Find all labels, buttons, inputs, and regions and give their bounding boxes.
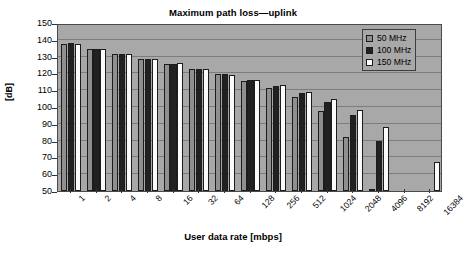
bar [215,74,221,191]
bar-group [186,25,212,191]
x-tick-label: 64 [232,193,246,207]
bar [222,74,228,191]
y-tick-label: 60 [42,169,57,179]
bar [87,49,93,191]
bar-group [135,25,161,191]
bar [170,64,176,191]
x-tick-mark [301,189,302,193]
bar [164,64,170,191]
chart-title: Maximum path loss—uplink [0,7,466,18]
black-swatch [366,47,373,54]
x-tick-mark [121,189,122,193]
bar [299,93,305,191]
chart-figure: Maximum path loss—uplink [dB] 1501401301… [0,0,466,254]
x-tick-mark [404,189,405,193]
x-tick-mark [198,189,199,193]
bar [318,111,324,191]
y-tick-label: 100 [37,102,57,112]
x-tick-mark [352,189,353,193]
bar [196,69,202,191]
y-tick-label: 110 [38,85,57,95]
bar-group [109,25,135,191]
legend-label: 150 MHz [377,57,411,67]
bar [93,49,99,191]
bar [306,92,312,191]
bar-group [58,25,84,191]
bar [383,127,389,191]
legend-item: 50 MHz [366,32,411,44]
bar [229,75,235,191]
chart-legend: 50 MHz100 MHz150 MHz [362,29,416,71]
bar [350,115,356,191]
bar [119,54,125,191]
bar [177,63,183,191]
bar-group [289,25,315,191]
x-axis-title: User data rate [mbps] [0,231,466,242]
bar-group [238,25,264,191]
x-tick-mark [173,189,174,193]
y-tick-label: 130 [37,52,57,62]
gray-swatch [366,35,373,42]
x-tick-label: 32 [206,193,220,207]
bar [145,59,151,191]
bar [357,110,363,191]
bar [343,137,349,191]
x-axis-ticks: 1248163264128256512102420484096819216384 [57,193,442,233]
x-tick-label: 256 [285,193,302,210]
bar [247,80,253,191]
bar [203,69,209,191]
bar [126,54,132,191]
y-tick-label: 150 [37,18,57,28]
x-tick-mark [275,189,276,193]
bar [280,85,286,191]
bar-group [315,25,341,191]
x-tick-label: 2048 [363,193,383,214]
bar-group [84,25,110,191]
x-tick-mark [70,189,71,193]
legend-item: 100 MHz [366,44,411,56]
legend-item: 150 MHz [366,56,411,68]
bar [324,102,330,191]
x-tick-label: 16 [180,193,194,207]
x-tick-label: 8 [153,193,164,203]
bar [273,86,279,191]
x-tick-mark [250,189,251,193]
x-tick-label: 4 [128,193,139,203]
bar [266,88,272,191]
bar [100,49,106,191]
y-tick-label: 90 [42,119,57,129]
y-tick-label: 80 [42,136,57,146]
y-tick-label: 70 [42,152,57,162]
bar [138,59,144,191]
x-tick-label: 2 [102,193,113,203]
bar [292,97,298,191]
bar [112,54,118,191]
x-tick-label: 512 [310,193,327,210]
legend-label: 50 MHz [377,33,407,43]
x-tick-mark [327,189,328,193]
x-tick-mark [224,189,225,193]
x-tick-mark [429,189,430,193]
bar [189,69,195,191]
bar [68,43,74,191]
bar [369,189,375,191]
y-tick-label: 50 [42,186,57,196]
bar [241,81,247,191]
x-tick-label: 4096 [389,193,409,214]
white-swatch [366,59,373,66]
y-tick-label: 140 [37,35,57,45]
x-tick-label: 128 [259,193,276,210]
x-tick-mark [378,189,379,193]
bar-group [417,25,442,191]
bar [331,99,337,191]
x-tick-mark [96,189,97,193]
legend-label: 100 MHz [377,45,411,55]
x-tick-label: 1024 [337,193,357,214]
bar [75,44,81,191]
bar [61,44,67,191]
x-tick-mark [147,189,148,193]
bar-group [212,25,238,191]
bar-group [161,25,187,191]
bar [434,162,440,191]
bar [376,141,382,191]
